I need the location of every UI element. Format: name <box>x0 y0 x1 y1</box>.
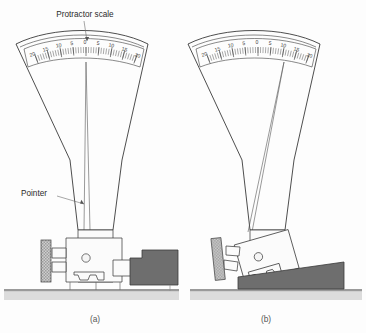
hatched-stop-a <box>41 240 51 282</box>
scale-label: 0 <box>256 39 259 45</box>
ground-plate-a <box>4 289 179 300</box>
hatched-stop-b <box>211 238 225 281</box>
pointer-label: Pointer <box>21 189 47 198</box>
workpiece-a <box>130 250 178 291</box>
panel-b: 20 15 10 5 0 5 10 15 20 <box>188 31 362 325</box>
protractor-fan-b <box>188 31 320 231</box>
protractor-gauge-figure: 20 15 10 5 0 5 10 15 20 <box>0 0 366 333</box>
panel-a: 20 15 10 5 0 5 10 15 20 <box>4 31 179 325</box>
caption-a: (a) <box>90 314 100 324</box>
scale-label: 0 <box>84 39 87 45</box>
caption-b: (b) <box>261 314 271 324</box>
protractor-fan-a <box>16 31 148 231</box>
pivot-screw-a <box>82 254 90 262</box>
ground-plate-b <box>190 289 362 300</box>
gauge-body-a <box>41 230 132 290</box>
protractor-scale-label: Protractor scale <box>56 10 114 19</box>
